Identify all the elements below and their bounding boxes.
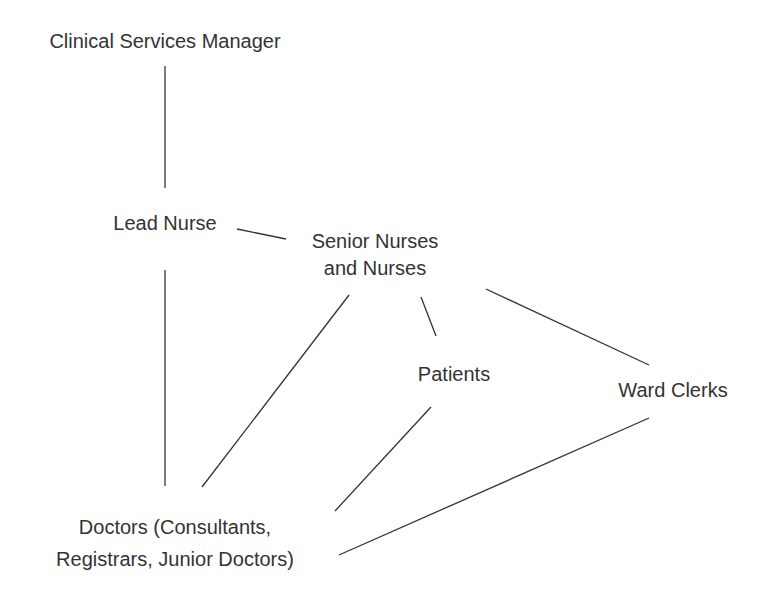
edge-lead-senior xyxy=(237,229,286,239)
node-clinical-services-manager: Clinical Services Manager xyxy=(20,28,310,55)
edge-senior-doctors xyxy=(202,295,349,487)
node-lead-nurse: Lead Nurse xyxy=(90,210,240,237)
node-doctors: Doctors (Consultants, Registrars, Junior… xyxy=(25,511,325,575)
diagram-canvas: Clinical Services Manager Lead Nurse Sen… xyxy=(0,0,773,605)
node-patients: Patients xyxy=(394,361,514,388)
node-label-line-1: Doctors (Consultants, xyxy=(25,511,325,543)
edge-senior-patients xyxy=(421,297,436,336)
node-label-line-1: Senior Nurses xyxy=(300,228,450,255)
node-senior-nurses: Senior Nurses and Nurses xyxy=(300,228,450,282)
node-label: Ward Clerks xyxy=(598,377,748,404)
edge-patients-doctors xyxy=(335,407,431,511)
node-label: Lead Nurse xyxy=(90,210,240,237)
edge-senior-clerks xyxy=(486,289,649,365)
node-label-line-2: and Nurses xyxy=(300,255,450,282)
node-label: Clinical Services Manager xyxy=(20,28,310,55)
node-label: Patients xyxy=(394,361,514,388)
edge-clerks-doctors xyxy=(339,418,649,555)
node-ward-clerks: Ward Clerks xyxy=(598,377,748,404)
node-label-line-2: Registrars, Junior Doctors) xyxy=(25,543,325,575)
